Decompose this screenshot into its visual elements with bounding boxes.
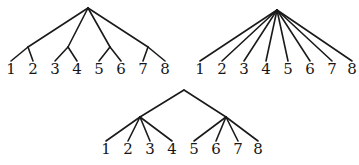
tree-balanced-pairs-edge-n4-leaf-7 xyxy=(143,47,148,61)
tree-balanced-pairs-edge-n3-leaf-5 xyxy=(99,47,110,61)
tree-star-edge-root-leaf-1 xyxy=(200,10,277,61)
tree-star-leaf-label-4: 4 xyxy=(261,60,271,78)
tree-two-clusters-edge-m2-leaf-8 xyxy=(226,117,258,141)
tree-balanced-pairs-leaf-label-7: 7 xyxy=(138,60,148,78)
tree-star-edge-root-leaf-8 xyxy=(277,10,352,61)
tree-edges-layer xyxy=(11,8,352,141)
tree-balanced-pairs-edge-n4-leaf-8 xyxy=(148,47,165,61)
tree-star-leaf-label-3: 3 xyxy=(239,60,249,78)
tree-balanced-pairs-leaf-label-1: 1 xyxy=(6,60,16,78)
tree-balanced-pairs-edge-n2-leaf-3 xyxy=(55,47,68,61)
tree-balanced-pairs-leaf-label-5: 5 xyxy=(94,60,104,78)
tree-balanced-pairs-edge-n3-leaf-6 xyxy=(110,47,121,61)
tree-two-clusters-leaf-label-2: 2 xyxy=(123,140,133,158)
tree-diagram-canvas: 123456781234567812345678 xyxy=(0,0,359,165)
tree-star-leaf-label-1: 1 xyxy=(195,60,205,78)
tree-two-clusters-leaf-label-6: 6 xyxy=(211,140,221,158)
tree-star-leaf-label-8: 8 xyxy=(347,60,357,78)
tree-star-leaf-label-6: 6 xyxy=(305,60,315,78)
tree-balanced-pairs-edge-n1-leaf-2 xyxy=(28,47,33,61)
tree-balanced-pairs-leaf-label-3: 3 xyxy=(50,60,60,78)
tree-two-clusters-leaf-label-4: 4 xyxy=(167,140,177,158)
tree-balanced-pairs-leaf-label-2: 2 xyxy=(28,60,38,78)
tree-two-clusters-edge-root-m1 xyxy=(140,90,184,117)
tree-star-leaf-label-5: 5 xyxy=(283,60,293,78)
tree-balanced-pairs-edge-root-n3 xyxy=(88,8,110,47)
tree-star-leaf-label-2: 2 xyxy=(217,60,227,78)
tree-leaf-labels-layer: 123456781234567812345678 xyxy=(6,60,357,158)
tree-balanced-pairs-leaf-label-6: 6 xyxy=(116,60,126,78)
tree-two-clusters-leaf-label-1: 1 xyxy=(101,140,111,158)
tree-balanced-pairs-edge-n2-leaf-4 xyxy=(68,47,77,61)
tree-two-clusters-edge-root-m2 xyxy=(184,90,226,117)
tree-two-clusters-leaf-label-8: 8 xyxy=(253,140,263,158)
tree-two-clusters-leaf-label-3: 3 xyxy=(145,140,155,158)
tree-two-clusters-leaf-label-5: 5 xyxy=(189,140,199,158)
tree-balanced-pairs-edge-root-n4 xyxy=(88,8,148,47)
tree-two-clusters-leaf-label-7: 7 xyxy=(233,140,243,158)
tree-figure: 123456781234567812345678 xyxy=(0,0,359,165)
tree-two-clusters-edge-m1-leaf-1 xyxy=(106,117,140,141)
tree-star-leaf-label-7: 7 xyxy=(327,60,337,78)
tree-balanced-pairs-leaf-label-8: 8 xyxy=(160,60,170,78)
tree-balanced-pairs-edge-root-n1 xyxy=(28,8,88,47)
tree-balanced-pairs-edge-n1-leaf-1 xyxy=(11,47,28,61)
tree-balanced-pairs-leaf-label-4: 4 xyxy=(72,60,82,78)
